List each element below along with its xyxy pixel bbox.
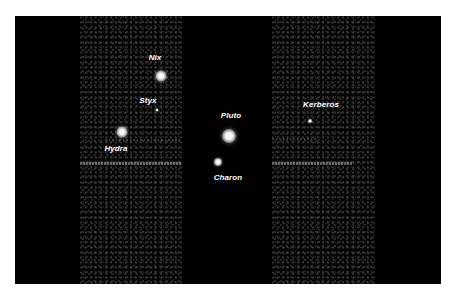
hydra-body	[117, 127, 128, 138]
kerberos-label: Kerberos	[303, 100, 339, 109]
nix-body	[156, 71, 167, 82]
right-noise-band	[272, 16, 375, 284]
pluto-label: Pluto	[221, 111, 242, 120]
styx-label: Styx	[139, 96, 156, 105]
styx-body	[156, 109, 159, 112]
telescope-image-panel	[15, 16, 441, 284]
left-streak	[80, 162, 182, 165]
charon-body	[214, 158, 222, 166]
pluto-body	[222, 129, 236, 143]
right-streak-faint	[272, 138, 317, 140]
nix-label: Nix	[149, 53, 162, 62]
right-streak	[272, 162, 352, 165]
left-streak-faint	[105, 139, 180, 141]
kerberos-body	[308, 119, 312, 123]
left-noise-band	[80, 16, 182, 284]
hydra-label: Hydra	[104, 144, 127, 153]
charon-label: Charon	[214, 173, 243, 182]
